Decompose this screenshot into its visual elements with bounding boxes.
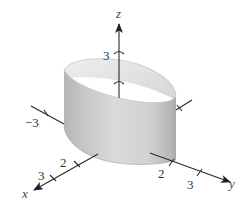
- z-axis-label: z: [115, 6, 121, 21]
- elliptic-cylinder: [64, 59, 176, 165]
- neg-x-axis: [176, 100, 192, 110]
- y-tick-label-3: 3: [187, 177, 194, 192]
- y-tick-label-2: 2: [158, 166, 165, 181]
- y-axis-label: y: [227, 176, 235, 191]
- elliptic-cylinder-figure: z 3 −3 2 3 x 2 3 y: [0, 0, 238, 208]
- neg-y-tick-label-3: −3: [25, 115, 39, 130]
- neg-x-tick: [177, 105, 182, 111]
- x-tick-label-2: 2: [60, 155, 67, 170]
- x-tick-label-3: 3: [38, 168, 45, 183]
- x-axis-label: x: [21, 186, 28, 201]
- z-tick-label-3: 3: [103, 48, 110, 63]
